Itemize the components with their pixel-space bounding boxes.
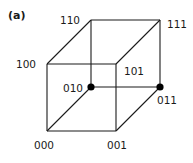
vertex-label-011: 011: [157, 94, 177, 106]
vertex-label-101: 101: [124, 65, 144, 77]
vertex-label-100: 100: [16, 58, 36, 70]
edge-101-111: [116, 20, 160, 64]
vertex-label-111: 111: [167, 18, 187, 30]
edge-001-011: [116, 87, 160, 131]
edge-100-110: [47, 20, 91, 64]
vertex-label-010: 010: [63, 82, 83, 94]
vertex-label-110: 110: [60, 14, 80, 26]
vertex-marker-010: [87, 83, 94, 90]
vertex-label-001: 001: [107, 139, 127, 151]
vertex-marker-011: [156, 83, 163, 90]
cube-diagram: (a) 110 111 100 101 010 011 000 001: [0, 0, 193, 163]
vertex-label-000: 000: [34, 139, 54, 151]
panel-label: (a): [8, 9, 25, 22]
